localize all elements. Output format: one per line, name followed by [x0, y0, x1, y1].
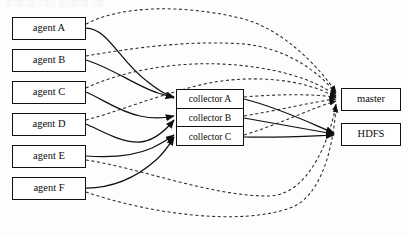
node-label: agent B [33, 55, 65, 66]
node-agent-c[interactable]: agent C [12, 81, 86, 104]
node-label: HDFS [358, 129, 385, 140]
scan-artifact-text: ▒░▒░▒ ░▒░ ▒░▒░▒ ░▒ [6, 0, 266, 7]
node-collector-b[interactable]: collector B [177, 109, 243, 128]
node-agent-d[interactable]: agent D [12, 113, 86, 136]
node-label: agent F [33, 183, 64, 194]
agent-to-collector-solid-edges [86, 28, 174, 188]
collector-to-hdfs-solid-edges [244, 99, 334, 137]
node-hdfs[interactable]: HDFS [341, 123, 401, 146]
node-master[interactable]: master [341, 88, 401, 111]
node-label: agent E [33, 151, 65, 162]
node-collector-a[interactable]: collector A [177, 90, 243, 109]
node-label: agent D [33, 119, 66, 130]
node-agent-b[interactable]: agent B [12, 49, 86, 72]
node-agent-e[interactable]: agent E [12, 145, 86, 168]
collector-group: collector A collector B collector C [176, 89, 244, 146]
node-label: collector C [189, 131, 231, 142]
diagram-canvas: ▒░▒░▒ ░▒░ ▒░▒░▒ ░▒ [0, 0, 408, 237]
node-collector-c[interactable]: collector C [177, 127, 243, 145]
node-agent-f[interactable]: agent F [12, 177, 86, 200]
node-agent-a[interactable]: agent A [12, 17, 86, 40]
node-label: collector A [189, 93, 231, 104]
node-label: agent C [33, 87, 65, 98]
node-label: master [357, 94, 385, 105]
node-label: collector B [189, 112, 231, 123]
node-label: agent A [33, 23, 65, 34]
